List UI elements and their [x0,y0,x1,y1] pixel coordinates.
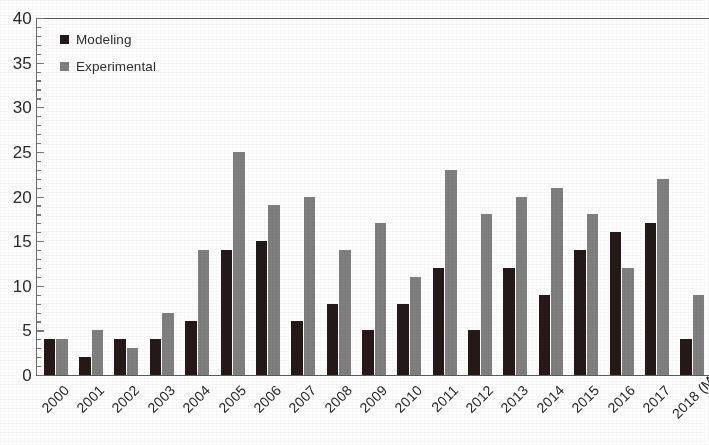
bar-experimental [268,205,280,375]
y-axis-tick-label: 0 [22,367,32,384]
x-axis-tick-label: 2009 [351,382,391,422]
y-axis-tick-label: 15 [13,233,32,250]
bar-modeling [680,339,692,375]
y-axis-tick-label: 25 [13,143,32,160]
x-axis-tick-label: 2000 [32,382,72,422]
bar-experimental [375,223,387,375]
bar-experimental [445,170,457,375]
bar-modeling [610,232,622,375]
bar-modeling [433,268,445,375]
bar-modeling [362,330,374,375]
x-axis-line [36,375,709,376]
x-axis-tick-label: 2018 (May) [669,382,709,422]
y-axis-labels: 0510152025303540 [0,0,32,445]
x-axis-tick-label: 2008 [315,382,355,422]
bar-modeling [221,250,233,375]
plot-area [37,18,709,375]
x-axis-tick-label: 2001 [68,382,108,422]
bar-experimental [551,188,563,375]
bar-modeling [645,223,657,375]
bar-experimental [410,277,422,375]
bar-modeling [327,304,339,375]
bar-experimental [587,214,599,375]
x-axis-tick-label: 2002 [103,382,143,422]
bar-modeling [503,268,515,375]
bar-chart: 0510152025303540 Modeling Experimental 2… [0,0,709,445]
y-axis-tick-label: 10 [13,277,32,294]
x-axis-tick-label: 2013 [492,382,532,422]
bar-modeling [185,321,197,375]
bar-experimental [198,250,210,375]
bar-modeling [256,241,268,375]
bar-experimental [162,313,174,375]
bar-modeling [574,250,586,375]
bar-modeling [150,339,162,375]
x-axis-tick-label: 2003 [138,382,178,422]
bar-modeling [397,304,409,375]
y-axis-tick-label: 5 [22,322,32,339]
bar-modeling [44,339,56,375]
bar-modeling [114,339,126,375]
x-axis-tick-label: 2012 [457,382,497,422]
bar-experimental [92,330,104,375]
y-axis-tick-label: 35 [13,54,32,71]
bar-experimental [657,179,669,375]
bar-experimental [339,250,351,375]
bar-modeling [291,321,303,375]
x-axis-tick-label: 2005 [209,382,249,422]
x-axis-tick-label: 2011 [421,382,461,422]
bar-modeling [79,357,91,375]
x-axis-tick-label: 2014 [528,382,568,422]
y-axis-tick-label: 20 [13,188,32,205]
x-axis-tick-label: 2004 [174,382,214,422]
x-axis-tick-label: 2007 [280,382,320,422]
x-axis-tick-label: 2006 [245,382,285,422]
bar-experimental [304,197,316,376]
bar-experimental [693,295,705,375]
x-axis-tick-label: 2010 [386,382,426,422]
bar-experimental [127,348,139,375]
bar-modeling [468,330,480,375]
bar-experimental [481,214,493,375]
y-axis-tick-label: 30 [13,99,32,116]
bar-experimental [622,268,634,375]
bar-experimental [233,152,245,375]
y-axis-major-tick [37,375,44,376]
x-axis-tick-label: 2016 [598,382,638,422]
x-axis-tick-label: 2015 [563,382,603,422]
bar-experimental [516,197,528,376]
bar-modeling [539,295,551,375]
y-axis-tick-label: 40 [13,10,32,27]
x-axis-tick-label: 2017 [634,382,674,422]
bar-experimental [56,339,68,375]
